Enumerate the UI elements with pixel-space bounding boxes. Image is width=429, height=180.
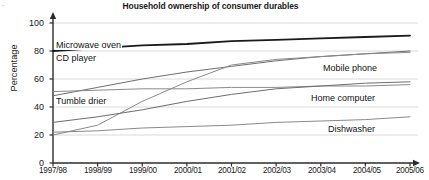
series-label-mobile-phone: Mobile phone — [322, 63, 378, 73]
series-label-tumble-drier: Tumble drier — [55, 96, 107, 106]
x-tick-3: 2000/01 — [168, 166, 208, 175]
y-tick-80: 80 — [22, 46, 44, 56]
x-tick-1: 1998/99 — [78, 166, 118, 175]
y-axis-arrow — [50, 12, 56, 19]
y-tick-100: 100 — [22, 18, 44, 28]
series-label-dishwasher: Dishwasher — [327, 124, 376, 134]
y-tick-60: 60 — [22, 74, 44, 84]
series-label-home-computer: Home computer — [310, 93, 376, 103]
x-tick-4: 2001/02 — [212, 166, 252, 175]
series-label-microwave-oven: Microwave oven — [55, 40, 122, 50]
y-tick-40: 40 — [22, 102, 44, 112]
x-tick-2: 1999/00 — [123, 166, 163, 175]
x-tick-6: 2003/04 — [302, 166, 342, 175]
series-line-cd-player — [53, 51, 410, 96]
x-tick-8: 2005/06 — [390, 166, 429, 175]
x-tick-7: 2004/05 — [347, 166, 387, 175]
y-tick-20: 20 — [22, 130, 44, 140]
series-label-cd-player: CD player — [55, 53, 97, 63]
x-tick-0: 1997/98 — [33, 166, 73, 175]
x-tick-5: 2002/03 — [257, 166, 297, 175]
